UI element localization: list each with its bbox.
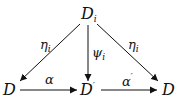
alpha-prime-base: α xyxy=(122,74,131,89)
node-top: Di xyxy=(81,6,97,24)
label-eta-left: ηi xyxy=(40,38,51,54)
eta-left-base: η xyxy=(40,37,48,52)
psi-base: ψ xyxy=(92,45,102,60)
psi-sub: i xyxy=(102,52,105,62)
node-bottom-left-base: D xyxy=(3,80,16,99)
eta-left-sub: i xyxy=(48,44,51,54)
node-top-base: D xyxy=(81,4,94,23)
alpha-prime-mark: ′ xyxy=(131,72,133,82)
node-bottom-middle-base: D xyxy=(80,80,93,99)
node-bottom-right: D xyxy=(162,82,175,98)
alpha-base: α xyxy=(45,72,54,87)
label-alpha-prime: α′ xyxy=(122,73,133,88)
node-bottom-left: D xyxy=(3,82,16,98)
label-eta-right: ηi xyxy=(128,38,139,54)
label-psi: ψi xyxy=(92,46,105,62)
eta-right-base: η xyxy=(128,37,136,52)
label-alpha: α xyxy=(45,73,54,86)
node-bottom-right-base: D xyxy=(162,80,175,99)
node-bottom-middle: D′ xyxy=(80,82,95,98)
node-top-sub: i xyxy=(94,14,97,24)
node-bottom-middle-prime: ′ xyxy=(93,81,95,91)
eta-right-sub: i xyxy=(136,44,139,54)
